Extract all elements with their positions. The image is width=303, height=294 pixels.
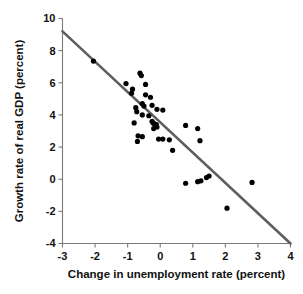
y-axis-title: Growth rate of real GDP (percent) [13,40,25,223]
data-point [206,173,211,178]
data-point [183,123,188,128]
y-axis: 1086420-2-4 [43,12,62,249]
data-point [160,136,165,141]
data-point [249,180,254,185]
data-point [183,181,188,186]
data-point [134,109,139,114]
y-tick-label: 2 [49,141,55,153]
data-point [224,206,229,211]
data-point [146,113,151,118]
data-point [143,92,148,97]
y-tick-label: 6 [49,77,55,89]
y-tick-label: 10 [43,12,55,24]
data-point [160,108,165,113]
x-tick-label: 4 [287,250,294,262]
x-tick-label: 1 [190,250,196,262]
x-tick-label: -2 [90,250,100,262]
data-point [135,139,140,144]
data-point [154,107,159,112]
x-axis-title: Change in unemployment rate (percent) [68,268,285,280]
x-tick-label: -1 [123,250,133,262]
data-point [197,138,202,143]
x-axis: -3-2-101234 [58,244,295,262]
data-point [143,82,148,87]
data-point [132,120,137,125]
regression-line [63,31,291,243]
okuns-law-scatter-figure: 1086420-2-4 -3-2-101234 Change in unempl… [0,0,303,294]
chart-canvas: 1086420-2-4 -3-2-101234 Change in unempl… [0,0,303,294]
data-point [198,178,203,183]
data-point [195,126,200,131]
y-tick-label: 0 [49,173,55,185]
x-tick-label: 2 [222,250,228,262]
x-tick-label: 0 [157,250,163,262]
data-point [148,95,153,100]
data-point [129,91,134,96]
y-tick-label: 4 [49,109,56,121]
data-point [151,126,156,131]
y-tick-label: -2 [46,205,56,217]
y-tick-label: -4 [46,237,57,249]
data-point [149,103,154,108]
data-point [123,81,128,86]
data-point [167,137,172,142]
data-point [91,58,96,63]
data-point [141,103,146,108]
x-tick-label: 3 [255,250,261,262]
data-point [140,134,145,139]
data-point [139,73,144,78]
x-tick-label: -3 [58,250,68,262]
data-point [140,112,145,117]
data-point [170,148,175,153]
y-tick-label: 8 [49,45,55,57]
